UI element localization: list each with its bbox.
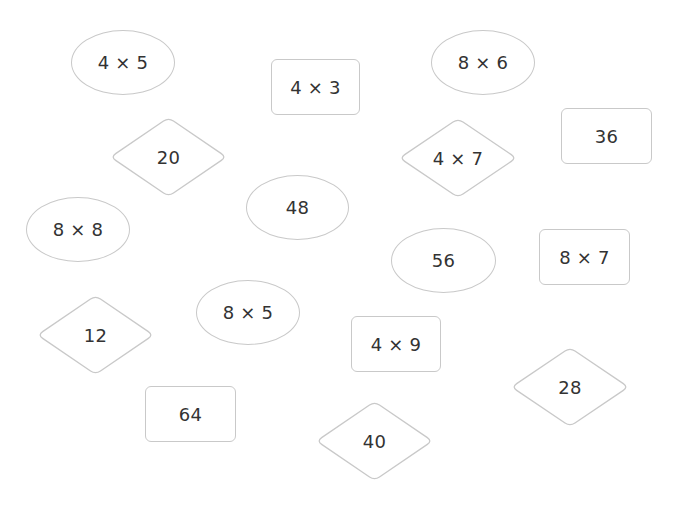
card-label: 4 × 9 (371, 334, 421, 355)
card-diamond-20[interactable]: 20 (110, 117, 227, 197)
card-rect-36[interactable]: 36 (561, 108, 652, 164)
card-diamond-4x7[interactable]: 4 × 7 (399, 118, 517, 198)
card-label: 20 (157, 147, 180, 168)
card-label: 8 × 7 (559, 247, 609, 268)
card-rect-8x7[interactable]: 8 × 7 (539, 229, 630, 285)
card-label: 4 × 7 (433, 148, 483, 169)
card-rect-4x9[interactable]: 4 × 9 (351, 316, 441, 372)
card-diamond-40[interactable]: 40 (316, 401, 433, 481)
card-ellipse-8x6[interactable]: 8 × 6 (431, 30, 535, 95)
card-ellipse-48[interactable]: 48 (246, 175, 349, 240)
card-label: 28 (558, 377, 581, 398)
card-label: 48 (286, 197, 309, 218)
card-label: 64 (179, 404, 202, 425)
card-ellipse-56[interactable]: 56 (391, 228, 496, 293)
card-label: 56 (432, 250, 455, 271)
card-ellipse-4x5[interactable]: 4 × 5 (71, 30, 175, 95)
matching-cards-canvas: 4 × 5 4 × 3 8 × 6 20 4 × 7 36 48 8 × 8 5… (0, 0, 673, 510)
card-label: 36 (595, 126, 618, 147)
card-label: 4 × 3 (290, 77, 340, 98)
card-rect-64[interactable]: 64 (145, 386, 236, 442)
card-label: 12 (84, 325, 107, 346)
card-ellipse-8x5[interactable]: 8 × 5 (196, 280, 300, 345)
card-label: 8 × 5 (223, 302, 273, 323)
card-label: 40 (363, 431, 386, 452)
card-label: 8 × 8 (53, 219, 103, 240)
card-diamond-12[interactable]: 12 (37, 295, 154, 375)
card-ellipse-8x8[interactable]: 8 × 8 (26, 197, 130, 262)
card-label: 4 × 5 (98, 52, 148, 73)
card-label: 8 × 6 (458, 52, 508, 73)
card-diamond-28[interactable]: 28 (511, 347, 629, 427)
card-rect-4x3[interactable]: 4 × 3 (271, 59, 360, 115)
